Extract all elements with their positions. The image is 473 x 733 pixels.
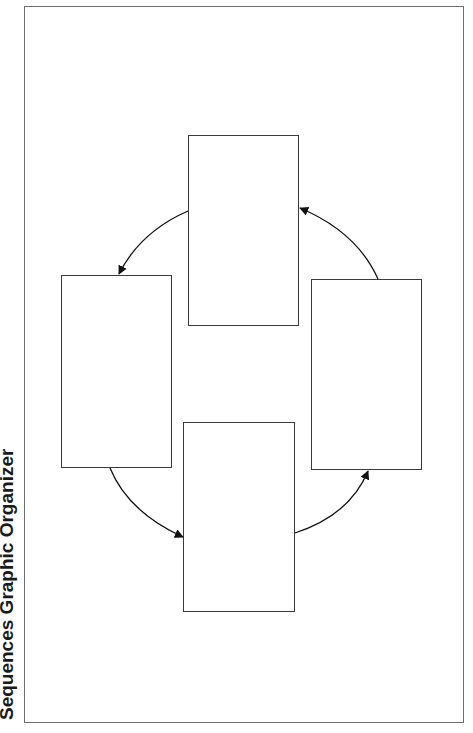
sequence-box-top[interactable] (188, 135, 299, 326)
sequence-box-left[interactable] (61, 275, 172, 468)
sequence-box-right[interactable] (311, 279, 422, 470)
sequence-box-bottom[interactable] (183, 422, 295, 612)
organizer-title: Sequences Graphic Organizer (0, 449, 17, 720)
